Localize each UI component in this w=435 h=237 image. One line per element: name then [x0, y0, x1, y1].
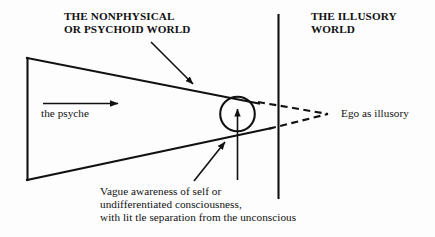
- wedge-top-edge: [27, 58, 259, 104]
- wedge-bottom-edge: [27, 128, 272, 180]
- caption-vague-awareness: Vague awareness of self or undifferentia…: [100, 185, 296, 225]
- nonphysical-world-pointer-arrow: [151, 42, 193, 84]
- label-the-psyche: the psyche: [41, 107, 89, 120]
- psyche-diagram: THE NONPHYSICAL OR PSYCHOID WORLD THE IL…: [0, 0, 435, 237]
- wedge-top-edge-dashed: [258, 102, 328, 114]
- heading-illusory-world: THE ILLUSORY WORLD: [311, 10, 397, 36]
- caption-pointer-arrow: [194, 142, 225, 181]
- heading-nonphysical-world: THE NONPHYSICAL OR PSYCHOID WORLD: [64, 10, 190, 36]
- label-ego-as-illusory: Ego as illusory: [341, 107, 409, 120]
